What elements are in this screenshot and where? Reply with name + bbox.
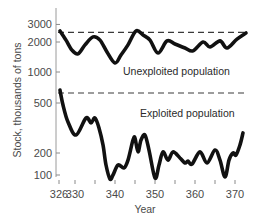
stock-chart-svg: 300020001000500200100 326330340350360370… xyxy=(0,0,265,223)
x-axis-title: Year xyxy=(134,203,156,215)
y-tick-label: 500 xyxy=(34,97,52,109)
y-tick-label: 3000 xyxy=(28,18,52,30)
y-tick-label: 100 xyxy=(34,169,52,181)
exploited-series-label: Exploited population xyxy=(140,107,235,119)
unexploited-series-label: Unexploited population xyxy=(123,65,230,77)
x-tick-label: 330 xyxy=(66,188,84,200)
exploited-population-curve xyxy=(60,90,243,179)
series-curves xyxy=(60,31,246,180)
chart: 300020001000500200100 326330340350360370… xyxy=(0,0,265,223)
y-tick-label: 200 xyxy=(34,147,52,159)
x-axis: 326330340350360370 xyxy=(50,180,244,200)
x-tick-label: 340 xyxy=(106,188,124,200)
y-tick-label: 1000 xyxy=(28,66,52,78)
x-tick-label: 370 xyxy=(226,188,244,200)
y-axis: 300020001000500200100 xyxy=(28,8,60,181)
y-tick-label: 2000 xyxy=(28,36,52,48)
x-tick-label: 350 xyxy=(146,188,164,200)
x-tick-label: 360 xyxy=(186,188,204,200)
y-axis-title: Stock, thousands of tons xyxy=(11,43,23,158)
unexploited-population-curve xyxy=(60,31,246,63)
